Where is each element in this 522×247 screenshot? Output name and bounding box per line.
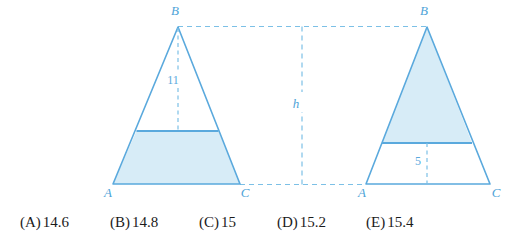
answer-choice-d-tag: (D) [277,214,298,230]
right-triangle-group: 5 B A C [357,3,501,200]
answer-choice-d[interactable]: (D)15.2 [277,214,326,231]
answer-choice-b[interactable]: (B)14.8 [110,214,158,231]
answer-choice-a[interactable]: (A)14.6 [20,214,69,231]
right-segment-measure: 5 [415,154,421,168]
height-label: h [293,96,300,111]
answer-choice-b-value: 14.8 [132,214,158,230]
left-vertex-label-b: B [171,3,179,18]
answer-choice-e[interactable]: (E)15.4 [366,214,413,231]
answer-choice-b-tag: (B) [110,214,130,230]
right-shaded-triangle [382,27,472,143]
left-vertex-label-c: C [241,185,250,200]
answer-choices-row: (A)14.6 (B)14.8 (C)15 (D)15.2 (E)15.4 [0,205,522,247]
left-segment-measure: 11 [167,73,179,87]
answer-choice-d-value: 15.2 [300,214,326,230]
answer-choice-c-tag: (C) [199,214,219,230]
right-vertex-label-c: C [492,185,501,200]
right-vertex-label-b: B [420,3,428,18]
answer-choice-e-value: 15.4 [387,214,413,230]
geometry-figure-container: h 11 B A C [0,0,522,205]
left-triangle-group: 11 B A C [103,3,250,200]
answer-choice-e-tag: (E) [366,214,385,230]
answer-choice-c-value: 15 [221,214,236,230]
answer-choice-a-tag: (A) [20,214,41,230]
answer-choice-a-value: 14.6 [43,214,69,230]
right-vertex-label-a: A [357,185,366,200]
answer-choice-c[interactable]: (C)15 [199,214,236,231]
geometry-diagram: h 11 B A C [0,0,522,205]
left-vertex-label-a: A [103,185,112,200]
